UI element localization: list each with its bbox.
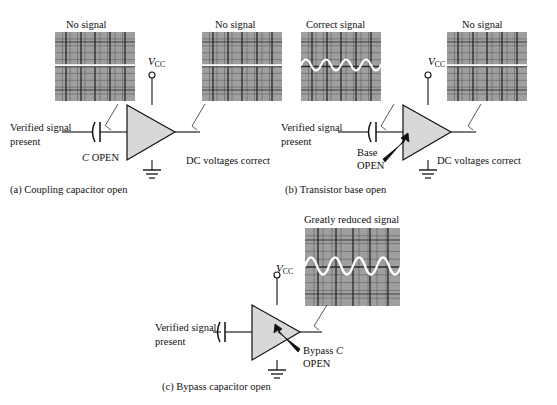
- fault-label-c-line2: OPEN: [303, 358, 330, 370]
- vcc-terminal-b: [425, 72, 431, 78]
- scope-title-b2: No signal: [462, 19, 503, 31]
- input-label-c-line1: Verified signal: [155, 322, 217, 334]
- fault-label-b-line1: Base: [357, 147, 377, 159]
- oscilloscope-screen-b1: [301, 32, 381, 101]
- probe-tick-a2: [192, 126, 197, 130]
- probe-tick-c1: [314, 326, 319, 330]
- vcc-label-c-sub: CC: [283, 267, 293, 276]
- scope-title-a1: No signal: [66, 19, 107, 31]
- vcc-label-c: VCC: [276, 262, 293, 274]
- amp-text-b-line2: stage: [404, 133, 442, 143]
- capacitor-plate-a-left: [93, 122, 96, 142]
- capacitor-plate-b-left: [369, 122, 372, 142]
- fault-label-c-bypass: Bypass: [303, 345, 336, 356]
- scope-title-b1: Correct signal: [306, 19, 365, 31]
- amp-text-c-line2: stage: [253, 332, 291, 342]
- capacitor-open-label-a-rest: OPEN: [89, 152, 119, 163]
- capacitor-open-label-a-italic: C: [82, 152, 89, 163]
- input-label-a-line1: Verified signal: [10, 122, 72, 134]
- fault-label-b-line2: OPEN: [357, 160, 384, 172]
- vcc-label-b-sub: CC: [435, 60, 445, 69]
- vcc-label-a-v: V: [148, 55, 155, 67]
- caption-b: (b) Transistor base open: [285, 184, 386, 196]
- fault-label-c-italic-c: C: [336, 345, 343, 356]
- vcc-terminal-a: [149, 72, 155, 78]
- probe-tick-b1: [381, 126, 386, 130]
- probe-leader-a2: [192, 104, 205, 126]
- oscilloscope-screen-c1: [305, 228, 400, 306]
- vcc-label-b: VCC: [428, 55, 445, 67]
- caption-a: (a) Coupling capacitor open: [10, 184, 128, 196]
- probe-leader-a1: [105, 104, 118, 126]
- probe-leader-c1: [314, 305, 327, 326]
- output-note-b: DC voltages correct: [437, 155, 521, 167]
- input-label-b-line2: present: [281, 136, 311, 148]
- probe-tick-b2: [468, 126, 473, 130]
- oscilloscope-screen-a2: [202, 32, 282, 101]
- amp-text-a-line2: stage: [128, 133, 166, 143]
- oscilloscope-screen-b2: [447, 32, 527, 101]
- scope-title-c1: Greatly reduced signal: [304, 214, 399, 226]
- scope-title-a2: No signal: [215, 19, 256, 31]
- caption-c: (c) Bypass capacitor open: [162, 381, 271, 393]
- input-label-a-line2: present: [10, 136, 40, 148]
- input-label-b-line1: Verified signal: [281, 122, 343, 134]
- vcc-label-a-sub: CC: [155, 60, 165, 69]
- output-note-a: DC voltages correct: [186, 155, 270, 167]
- probe-tick-a1: [106, 126, 111, 130]
- capacitor-open-label-a: C OPEN: [82, 152, 119, 164]
- probe-leader-b2: [468, 104, 481, 126]
- vcc-label-a: VCC: [148, 55, 165, 67]
- input-label-c-line2: present: [155, 336, 185, 348]
- probe-leader-b1: [381, 104, 394, 126]
- capacitor-plate-c-left: [218, 322, 221, 342]
- oscilloscope-screen-a1: [55, 32, 135, 101]
- vcc-label-b-v: V: [428, 55, 435, 67]
- vcc-label-c-v: V: [276, 262, 283, 274]
- fault-label-c-line1: Bypass C: [303, 345, 343, 357]
